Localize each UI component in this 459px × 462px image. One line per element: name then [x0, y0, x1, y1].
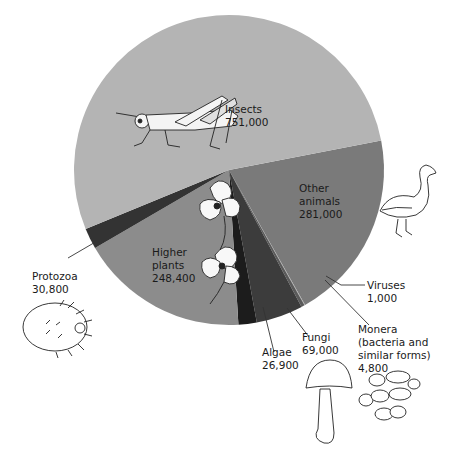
- mushroom-icon: [306, 360, 352, 443]
- label-fungi-name: Fungi: [302, 331, 339, 344]
- label-monera-line2: (bacteria and: [358, 336, 431, 349]
- pie-chart: [0, 0, 459, 462]
- bird-icon: [380, 165, 436, 237]
- label-higher-plants-line1: Higher: [152, 246, 195, 259]
- label-monera: Monera (bacteria and similar forms) 4,80…: [358, 323, 431, 375]
- label-fungi: Fungi 69,000: [302, 331, 339, 357]
- label-fungi-value: 69,000: [302, 344, 339, 357]
- label-viruses-name: Viruses: [367, 279, 405, 292]
- label-insects-value: 751,000: [225, 116, 268, 129]
- label-insects: Insects 751,000: [225, 103, 268, 129]
- label-viruses: Viruses 1,000: [367, 279, 405, 305]
- label-other-animals: Other animals 281,000: [299, 182, 342, 221]
- label-other-animals-line1: Other: [299, 182, 342, 195]
- label-algae: Algae 26,900: [262, 346, 299, 372]
- protozoa-icon: [23, 300, 92, 358]
- label-other-animals-line2: animals: [299, 195, 342, 208]
- label-higher-plants-line2: plants: [152, 259, 195, 272]
- label-protozoa-value: 30,800: [32, 283, 78, 296]
- label-monera-value: 4,800: [358, 362, 431, 375]
- label-protozoa: Protozoa 30,800: [32, 270, 78, 296]
- label-other-animals-value: 281,000: [299, 208, 342, 221]
- label-higher-plants-value: 248,400: [152, 272, 195, 285]
- label-insects-name: Insects: [225, 103, 268, 116]
- label-monera-line3: similar forms): [358, 349, 431, 362]
- label-monera-line1: Monera: [358, 323, 431, 336]
- bacteria-icon: [359, 371, 420, 420]
- label-algae-value: 26,900: [262, 359, 299, 372]
- label-protozoa-name: Protozoa: [32, 270, 78, 283]
- label-higher-plants: Higher plants 248,400: [152, 246, 195, 285]
- label-viruses-value: 1,000: [367, 292, 405, 305]
- label-algae-name: Algae: [262, 346, 299, 359]
